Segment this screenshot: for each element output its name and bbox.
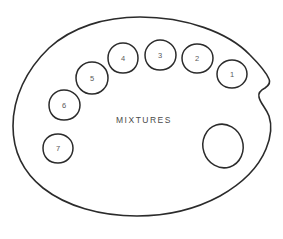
well-7-label: 7: [56, 144, 60, 153]
paint-well-5[interactable]: 5: [76, 62, 108, 94]
well-2-label: 2: [195, 54, 199, 63]
paint-well-7[interactable]: 7: [43, 134, 73, 163]
well-5-label: 5: [90, 74, 94, 83]
palette-caption: MIXTURES: [116, 115, 172, 125]
paint-well-4[interactable]: 4: [108, 43, 138, 73]
well-3-label: 3: [158, 51, 162, 60]
well-4-label: 4: [121, 54, 125, 63]
paint-well-1[interactable]: 1: [217, 60, 247, 88]
well-1-label: 1: [230, 70, 234, 79]
paint-well-6[interactable]: 6: [49, 90, 80, 120]
palette-figure: 1 2 3 4 5 6: [0, 0, 283, 239]
paint-well-3[interactable]: 3: [145, 40, 176, 70]
paint-well-2[interactable]: 2: [182, 44, 213, 73]
well-6-label: 6: [62, 101, 66, 110]
palette-drawing: 1 2 3 4 5 6: [0, 0, 283, 239]
